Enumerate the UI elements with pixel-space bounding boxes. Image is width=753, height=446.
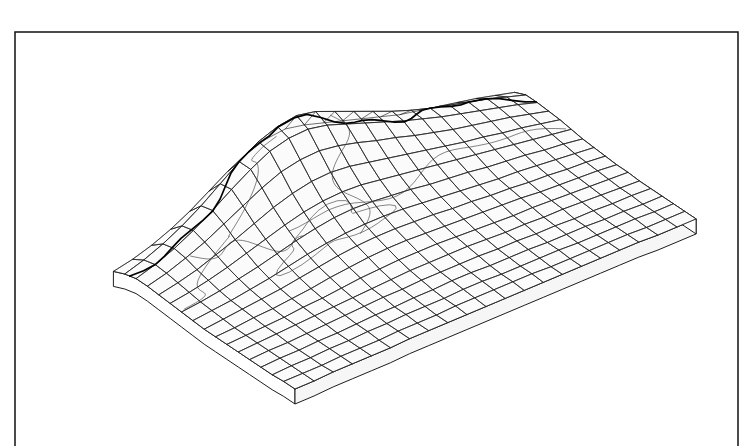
figure-root	[0, 0, 753, 446]
terrain-surface-plot	[0, 0, 753, 446]
